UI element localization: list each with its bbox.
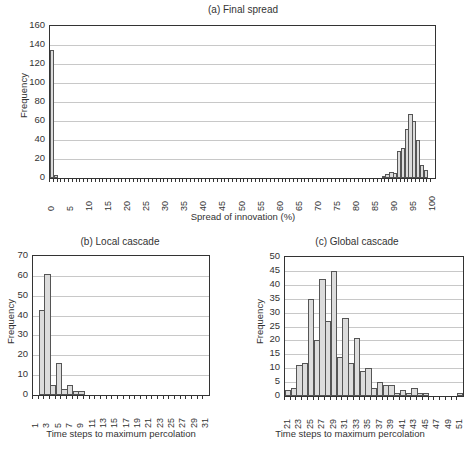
- x-tick-label: 40: [198, 201, 208, 211]
- x-tick-mark: [377, 179, 378, 182]
- x-tick-label: 11: [87, 419, 97, 428]
- x-tick-mark: [205, 179, 206, 182]
- gridline: [285, 285, 463, 286]
- x-tick-mark: [282, 179, 283, 182]
- x-tick-mark: [236, 179, 237, 182]
- x-tick-mark: [289, 179, 290, 182]
- x-tick-mark: [410, 397, 411, 400]
- x-tick-label: 37: [374, 419, 384, 429]
- x-tick-mark: [197, 396, 198, 399]
- x-tick-mark: [320, 179, 321, 182]
- gridline: [33, 335, 209, 336]
- x-tick-mark: [179, 179, 180, 182]
- x-tick-mark: [134, 396, 135, 399]
- x-tick-mark: [365, 179, 366, 182]
- plot-area: [284, 256, 464, 397]
- gridline: [50, 83, 435, 84]
- x-axis-label: Spread of innovation (%): [191, 211, 296, 222]
- x-tick-mark: [393, 397, 394, 400]
- histogram-bar: [457, 393, 463, 396]
- x-tick-mark: [224, 179, 225, 182]
- x-tick-mark: [284, 397, 285, 400]
- x-tick-label: 21: [143, 418, 153, 428]
- x-tick-label: 75: [332, 201, 342, 211]
- x-tick-mark: [60, 179, 61, 182]
- x-tick-label: 39: [385, 419, 395, 429]
- x-tick-label: 25: [141, 201, 151, 211]
- y-tick-label: 40: [19, 133, 45, 144]
- x-tick-mark: [194, 179, 195, 182]
- x-tick-mark: [102, 179, 103, 182]
- y-tick-label: 0: [19, 171, 45, 182]
- x-tick-mark: [72, 396, 73, 399]
- histogram-bar: [423, 393, 429, 396]
- x-tick-label: 21: [282, 419, 292, 429]
- x-tick-label: 17: [121, 418, 131, 428]
- x-tick-mark: [125, 179, 126, 182]
- x-tick-mark: [404, 179, 405, 182]
- x-tick-mark: [330, 397, 331, 400]
- x-tick-mark: [137, 179, 138, 182]
- x-tick-mark: [312, 179, 313, 182]
- x-tick-mark: [72, 179, 73, 182]
- x-tick-mark: [359, 397, 360, 400]
- x-tick-mark: [388, 179, 389, 182]
- x-axis-label: Time steps to maximum percolation: [46, 428, 196, 439]
- x-tick-label: 95: [408, 201, 418, 211]
- x-tick-mark: [111, 396, 112, 399]
- gridline: [33, 296, 209, 297]
- chart-title: (c) Global cascade: [315, 236, 398, 247]
- x-tick-label: 33: [351, 419, 361, 429]
- gridline: [50, 140, 435, 141]
- x-tick-mark: [382, 397, 383, 400]
- x-tick-mark: [324, 397, 325, 400]
- x-tick-mark: [369, 179, 370, 182]
- x-tick-mark: [129, 396, 130, 399]
- x-tick-mark: [347, 397, 348, 400]
- gridline: [50, 121, 435, 122]
- x-tick-mark: [301, 397, 302, 400]
- histogram-bar: [424, 170, 428, 178]
- x-tick-mark: [99, 179, 100, 182]
- x-tick-mark: [186, 179, 187, 182]
- x-tick-mark: [290, 397, 291, 400]
- x-tick-mark: [313, 397, 314, 400]
- x-tick-label: 80: [351, 201, 361, 211]
- x-tick-mark: [405, 397, 406, 400]
- x-tick-mark: [327, 179, 328, 182]
- x-tick-mark: [255, 179, 256, 182]
- x-tick-mark: [270, 179, 271, 182]
- x-tick-mark: [274, 179, 275, 182]
- y-tick-label: 10: [2, 368, 28, 379]
- histogram-bar: [44, 274, 50, 395]
- x-tick-label: 35: [179, 201, 189, 211]
- x-tick-mark: [198, 179, 199, 182]
- x-tick-mark: [180, 396, 181, 399]
- plot-area: [49, 25, 436, 179]
- y-tick-label: 45: [254, 264, 280, 275]
- x-tick-mark: [79, 179, 80, 182]
- x-tick-mark: [100, 396, 101, 399]
- gridline: [285, 271, 463, 272]
- x-tick-mark: [83, 396, 84, 399]
- x-tick-label: 41: [397, 419, 407, 429]
- x-tick-mark: [174, 396, 175, 399]
- x-tick-mark: [439, 397, 440, 400]
- x-tick-mark: [160, 179, 161, 182]
- y-tick-label: 0: [2, 388, 28, 399]
- x-tick-mark: [384, 179, 385, 182]
- x-tick-mark: [152, 179, 153, 182]
- x-tick-label: 31: [339, 419, 349, 429]
- x-tick-mark: [430, 179, 431, 182]
- y-tick-label: 20: [2, 348, 28, 359]
- x-tick-mark: [433, 397, 434, 400]
- x-tick-label: 0: [46, 206, 56, 211]
- histogram-bar: [78, 391, 84, 395]
- x-tick-mark: [399, 397, 400, 400]
- x-tick-mark: [350, 179, 351, 182]
- x-tick-mark: [346, 179, 347, 182]
- x-tick-label: 49: [443, 419, 453, 429]
- x-tick-label: 85: [370, 201, 380, 211]
- x-tick-mark: [353, 397, 354, 400]
- x-tick-mark: [445, 397, 446, 400]
